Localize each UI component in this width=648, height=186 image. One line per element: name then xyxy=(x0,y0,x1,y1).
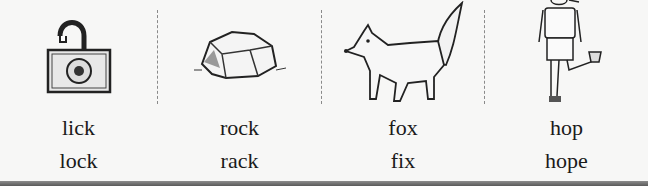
word-option-1: lick xyxy=(0,116,157,140)
item-lock: lick lock xyxy=(0,0,157,180)
girl-hopping-icon xyxy=(485,0,648,108)
word-option-2: fix xyxy=(322,149,484,173)
word-option-1: hop xyxy=(485,116,648,140)
item-hop: hop hope xyxy=(485,0,648,180)
word-option-1: rock xyxy=(158,116,321,140)
bottom-border xyxy=(0,181,648,186)
fox-icon xyxy=(322,0,484,108)
word-option-2: hope xyxy=(485,149,648,173)
padlock-icon xyxy=(0,0,157,108)
word-option-2: lock xyxy=(0,149,157,173)
word-option-2: rack xyxy=(158,149,321,173)
rock-icon xyxy=(158,0,321,108)
word-option-1: fox xyxy=(322,116,484,140)
item-fox: fox fix xyxy=(322,0,484,180)
item-rock: rock rack xyxy=(158,0,321,180)
